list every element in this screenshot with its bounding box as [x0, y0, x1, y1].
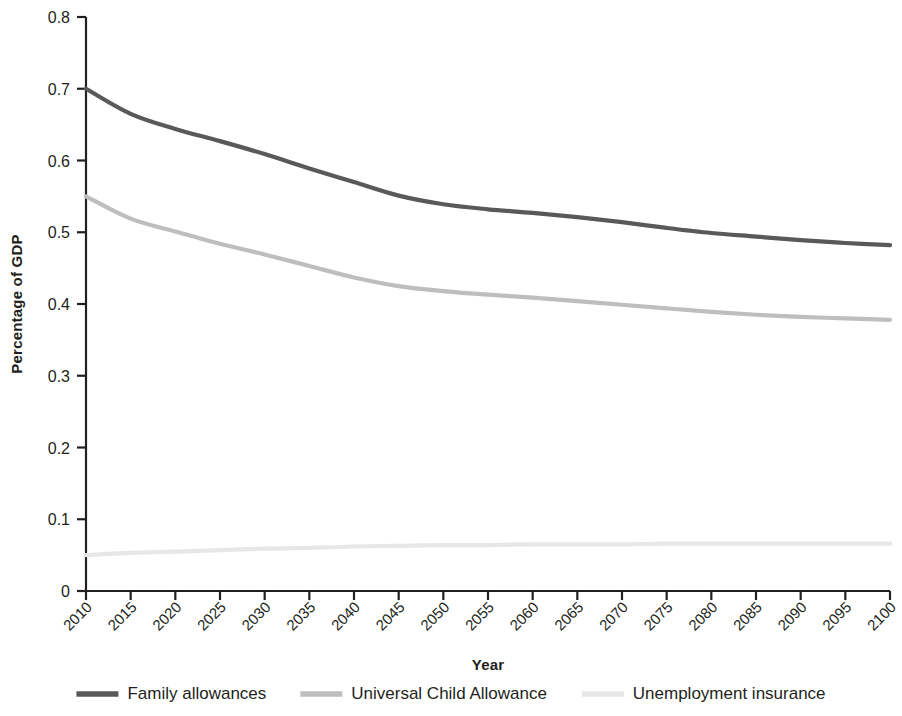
chart-legend: Family allowancesUniversal Child Allowan…	[76, 684, 825, 703]
y-axis-tick-label: 0.7	[48, 81, 70, 98]
y-axis-tick-label: 0	[61, 583, 70, 600]
legend-label-family-allowances: Family allowances	[127, 684, 266, 703]
y-axis-tick-label: 0.3	[48, 368, 70, 385]
legend-label-universal-child-allowance: Universal Child Allowance	[351, 684, 547, 703]
y-axis-title: Percentage of GDP	[8, 234, 25, 373]
line-chart: 00.10.20.30.40.50.60.70.8 20102015202020…	[0, 0, 902, 716]
y-axis-tick-label: 0.5	[48, 224, 70, 241]
chart-container: 00.10.20.30.40.50.60.70.8 20102015202020…	[0, 0, 902, 716]
y-axis-tick-label: 0.8	[48, 9, 70, 26]
y-axis-tick-label: 0.1	[48, 511, 70, 528]
y-axis-tick-label: 0.4	[48, 296, 70, 313]
y-axis-tick-label: 0.6	[48, 153, 70, 170]
y-axis-tick-label: 0.2	[48, 440, 70, 457]
legend-label-unemployment-insurance: Unemployment insurance	[633, 684, 826, 703]
x-axis-title: Year	[472, 656, 505, 673]
